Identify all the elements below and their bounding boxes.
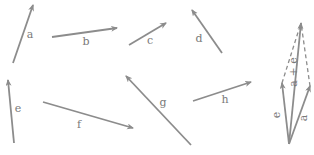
para-vector-a-label: a xyxy=(297,114,310,121)
vector-diagram: abcdefgh eaa + e xyxy=(0,0,314,155)
vector-b-label: b xyxy=(82,35,89,48)
vector-e-label: e xyxy=(15,102,22,115)
vector-d-label: d xyxy=(195,32,202,45)
parallelogram-sum-figure: eaa + e xyxy=(270,23,310,144)
vector-f-label: f xyxy=(77,118,82,131)
dashed-edge-1 xyxy=(301,23,310,86)
sum-vector-label: a + e xyxy=(287,57,300,86)
vector-g-arrow xyxy=(126,76,191,145)
vector-f-arrow xyxy=(43,102,133,128)
free-vectors: abcdefgh xyxy=(8,5,251,145)
vector-e-arrow xyxy=(8,80,14,143)
vector-c-label: c xyxy=(147,34,153,47)
vector-g-label: g xyxy=(159,96,166,109)
para-vector-e-arrow xyxy=(282,83,289,144)
para-vector-e-label: e xyxy=(270,112,283,119)
vector-h-label: h xyxy=(221,93,228,106)
vector-a-label: a xyxy=(27,28,34,41)
